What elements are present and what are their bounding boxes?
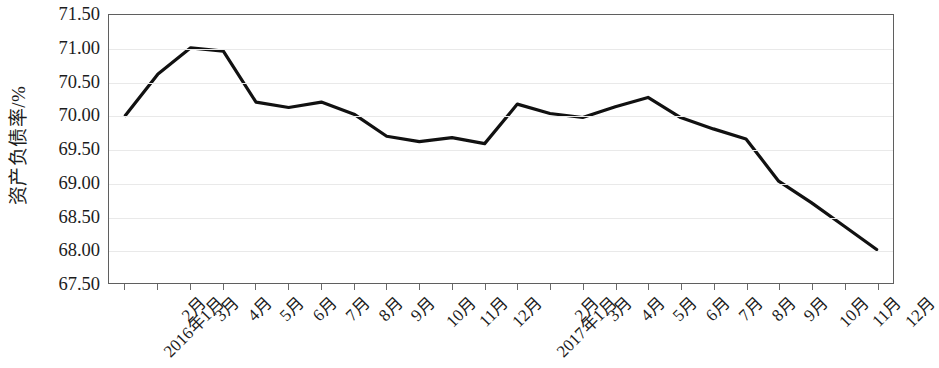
x-axis-tick-labels: 2016年1月2月3月4月5月6月7月8月9月10月11月12月2017年1月2…: [108, 290, 908, 368]
y-axis-title-text: 资产负债率/%: [4, 85, 31, 205]
x-axis-tick-label: 5月: [666, 290, 702, 326]
x-axis-tick-label: 4月: [633, 290, 669, 326]
y-axis-tick-label: 68.50: [58, 206, 100, 227]
plot-area: [108, 14, 894, 284]
x-axis-tick-label: 6月: [306, 290, 342, 326]
y-axis-tick-label: 71.50: [58, 4, 100, 25]
y-axis-tick-label: 68.00: [58, 240, 100, 261]
x-axis-tick-label: 9月: [797, 290, 833, 326]
x-axis-tick-label: 12月: [505, 290, 547, 332]
y-axis-tick-label: 70.50: [58, 71, 100, 92]
y-axis-title: 资产负债率/%: [0, 0, 34, 290]
gridline: [109, 83, 893, 84]
x-axis-tick-label: 6月: [699, 290, 735, 326]
gridline: [109, 150, 893, 151]
gridline: [109, 218, 893, 219]
x-axis-tick-label: 7月: [338, 290, 374, 326]
gridline: [109, 49, 893, 50]
y-axis-tick-label: 67.50: [58, 274, 100, 295]
data-series-line: [109, 15, 893, 283]
gridline: [109, 251, 893, 252]
y-axis-tick-labels: 71.5071.0070.5070.0069.5069.0068.5068.00…: [30, 0, 104, 290]
y-axis-tick-label: 70.00: [58, 105, 100, 126]
x-axis-tick-label: 12月: [898, 290, 939, 332]
gridline: [109, 116, 893, 117]
x-axis-tick-label: 8月: [764, 290, 800, 326]
y-axis-tick-label: 71.00: [58, 37, 100, 58]
y-axis-tick-label: 69.50: [58, 139, 100, 160]
x-axis-tick-label: 9月: [404, 290, 440, 326]
gridline: [109, 184, 893, 185]
x-axis-tick-label: 7月: [731, 290, 767, 326]
y-axis-tick-label: 69.00: [58, 172, 100, 193]
x-axis-tick-label: 8月: [371, 290, 407, 326]
x-axis-tick-label: 5月: [273, 290, 309, 326]
x-axis-tick-label: 4月: [240, 290, 276, 326]
